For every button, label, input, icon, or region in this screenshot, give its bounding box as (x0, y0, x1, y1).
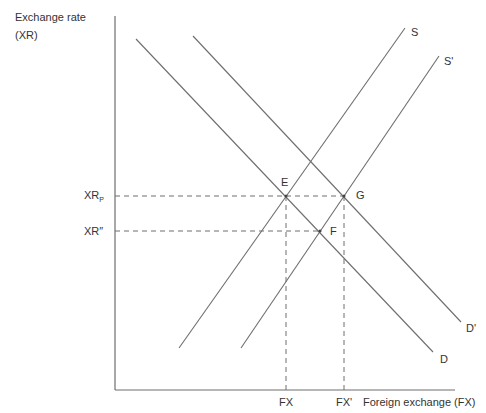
y-tick-xr-p: XRP (84, 190, 104, 203)
x-tick-fx-prime: FX' (336, 397, 352, 408)
curve-label-s: S (411, 27, 418, 38)
point-label-e: E (281, 177, 288, 188)
curve-label-d-prime: D' (466, 323, 476, 334)
y-tick-xr-double-prime: XR″ (84, 226, 103, 237)
point-label-f: F (330, 226, 337, 237)
x-axis-title: Foreign exchange (FX) (363, 397, 476, 408)
demand-curve-d-prime (193, 36, 461, 322)
curve-label-s-prime: S' (444, 56, 453, 67)
y-tick-xr-p-base: XR (84, 189, 99, 201)
y-axis-title-line1: Exchange rate (15, 8, 86, 26)
forex-diagram (0, 0, 486, 413)
supply-curve-s (179, 28, 405, 348)
y-axis-title-line2: (XR) (15, 26, 86, 44)
curve-label-d: D (440, 354, 448, 365)
x-tick-fx: FX (279, 397, 293, 408)
point-f-dot (319, 230, 322, 233)
point-e-dot (285, 195, 288, 198)
point-label-g: G (356, 190, 365, 201)
supply-curve-s-prime (241, 56, 439, 348)
point-g-dot (343, 195, 346, 198)
y-axis-title: Exchange rate (XR) (15, 8, 86, 44)
y-tick-xr-p-subscript: P (99, 196, 104, 203)
